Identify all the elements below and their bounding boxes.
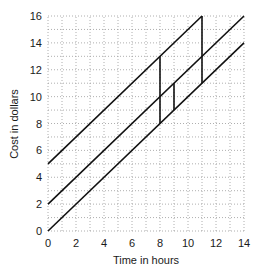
y-tick-label: 2 bbox=[36, 198, 42, 210]
y-tick-label: 10 bbox=[30, 91, 42, 103]
x-tick-label: 10 bbox=[182, 237, 194, 249]
series-lines bbox=[48, 16, 244, 231]
y-tick-labels: 0246810121416 bbox=[30, 10, 42, 237]
x-tick-labels: 02468101214 bbox=[45, 237, 250, 249]
y-tick-label: 6 bbox=[36, 144, 42, 156]
x-tick-label: 0 bbox=[45, 237, 51, 249]
line-chart: 02468101214 0246810121416 Time in hours … bbox=[0, 0, 263, 277]
x-axis-label: Time in hours bbox=[113, 254, 180, 266]
x-tick-label: 12 bbox=[210, 237, 222, 249]
x-tick-label: 6 bbox=[129, 237, 135, 249]
series-line-a bbox=[48, 16, 202, 164]
y-tick-label: 14 bbox=[30, 37, 42, 49]
y-tick-label: 12 bbox=[30, 64, 42, 76]
x-tick-label: 2 bbox=[73, 237, 79, 249]
y-axis-label: Cost in dollars bbox=[8, 89, 20, 159]
y-tick-label: 8 bbox=[36, 118, 42, 130]
x-tick-label: 14 bbox=[238, 237, 250, 249]
grid bbox=[48, 16, 244, 231]
x-tick-label: 8 bbox=[157, 237, 163, 249]
y-tick-label: 0 bbox=[36, 225, 42, 237]
y-tick-label: 4 bbox=[36, 171, 42, 183]
x-tick-label: 4 bbox=[101, 237, 107, 249]
y-tick-label: 16 bbox=[30, 10, 42, 22]
